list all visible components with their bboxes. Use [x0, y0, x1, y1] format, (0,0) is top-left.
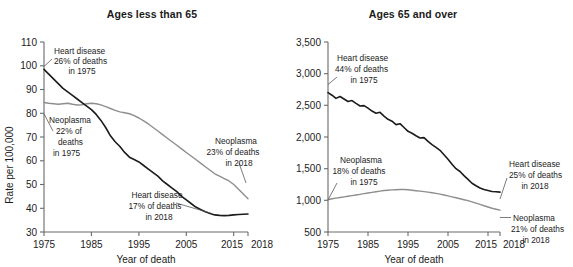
svg-text:in 1975: in 1975	[350, 177, 378, 187]
svg-text:Heart disease: Heart disease	[337, 53, 389, 63]
x-tick-label: 1975	[317, 239, 340, 250]
mortality-trends-figure: Ages less than 65 Rate per 100,000 30 40…	[0, 0, 573, 267]
y-tick-label: 2,000	[296, 132, 321, 143]
panel-left-y-ticks: 30 40 50 60 70 80 90 100 110	[20, 37, 44, 238]
y-tick-label: 3,500	[296, 37, 321, 48]
panel-right-y-ticks: 500 1,000 1,500 2,000 2,500 3,000 3,500	[296, 37, 328, 238]
svg-text:18% of deaths: 18% of deaths	[332, 166, 385, 176]
y-tick-label: 100	[20, 60, 37, 71]
leader-heart-2018	[500, 178, 507, 199]
panel-left-x-ticks: 1975 1985 1995 2005 2015 2018	[33, 232, 274, 250]
svg-text:in 2018: in 2018	[521, 181, 549, 191]
annotation-heart-2018: Heart disease 25% of deaths in 2018	[509, 159, 562, 191]
y-tick-label: 1,500	[296, 163, 321, 174]
svg-text:26% of deaths: 26% of deaths	[54, 56, 107, 66]
annotation-neoplasms-2018: Neoplasma 23% of deaths in 2018	[206, 136, 259, 168]
svg-text:in 1975: in 1975	[53, 148, 81, 158]
annotation-heart-2018: Heart disease 17% of deaths in 2018	[128, 190, 182, 222]
y-tick-label: 30	[26, 227, 38, 238]
svg-text:Heart disease: Heart disease	[131, 190, 183, 200]
svg-text:in 1975: in 1975	[350, 75, 378, 85]
x-tick-label: 2015	[475, 239, 498, 250]
x-tick-label: 2018	[251, 239, 274, 250]
panel-left-x-axis-label: Year of death	[116, 254, 175, 265]
panel-right-x-ticks: 1975 1985 1995 2005 2015 2018	[317, 232, 526, 250]
svg-text:deaths: deaths	[58, 137, 83, 147]
panel-left-plot: Rate per 100,000 30 40 50 60 70 80	[0, 0, 286, 267]
y-tick-label: 50	[26, 179, 38, 190]
svg-text:44% of deaths: 44% of deaths	[335, 64, 388, 74]
series-line-neoplasms	[328, 189, 500, 210]
x-tick-label: 1995	[397, 239, 420, 250]
svg-text:17% of deaths: 17% of deaths	[128, 201, 181, 211]
x-tick-label: 1975	[33, 239, 56, 250]
panel-ages-less-than-65: Ages less than 65 Rate per 100,000 30 40…	[0, 0, 286, 267]
svg-text:22% of: 22% of	[56, 126, 83, 136]
panel-right-plot: 500 1,000 1,500 2,000 2,500 3,000 3,500 …	[287, 0, 573, 267]
svg-text:Heart disease: Heart disease	[54, 46, 106, 56]
y-tick-label: 1,000	[296, 195, 321, 206]
svg-text:Heart disease: Heart disease	[509, 159, 561, 169]
y-tick-label: 2,500	[296, 100, 321, 111]
leader-neoplasms-1975	[328, 183, 337, 200]
svg-text:in 1975: in 1975	[68, 66, 96, 76]
annotation-heart-1975: Heart disease 26% of deaths in 1975	[54, 46, 107, 76]
y-tick-label: 110	[21, 37, 37, 48]
svg-text:25% of deaths: 25% of deaths	[509, 170, 562, 180]
x-tick-label: 1995	[128, 239, 151, 250]
svg-text:Neoplasma: Neoplasma	[215, 136, 257, 146]
y-tick-label: 3,000	[296, 68, 321, 79]
svg-text:Neoplasma: Neoplasma	[513, 213, 555, 223]
y-tick-label: 70	[26, 132, 38, 143]
x-tick-label: 2005	[175, 239, 198, 250]
x-tick-label: 2005	[437, 239, 460, 250]
svg-text:in 2018: in 2018	[522, 235, 550, 245]
svg-text:23% of deaths: 23% of deaths	[206, 147, 259, 157]
panel-left-y-axis-label: Rate per 100,000	[4, 126, 15, 204]
svg-text:in 2018: in 2018	[145, 212, 173, 222]
y-tick-label: 40	[26, 203, 38, 214]
leader-heart-1975	[328, 77, 337, 85]
y-tick-label: 90	[26, 84, 38, 95]
leader-heart-1975	[44, 59, 52, 67]
annotation-neoplasms-1975: Neoplasma 22% of deaths in 1975	[49, 115, 91, 158]
x-tick-label: 1985	[80, 239, 103, 250]
y-tick-label: 80	[26, 108, 38, 119]
y-tick-label: 60	[26, 155, 38, 166]
svg-text:Neoplasma: Neoplasma	[49, 115, 91, 125]
y-tick-label: 500	[304, 227, 321, 238]
panel-ages-65-and-over: Ages 65 and over 500 1,000 1,500 2,000 2…	[287, 0, 573, 267]
annotation-heart-1975: Heart disease 44% of deaths in 1975	[335, 53, 389, 85]
svg-text:Neoplasma: Neoplasma	[340, 155, 382, 165]
svg-text:in 2018: in 2018	[225, 158, 253, 168]
x-tick-label: 2015	[221, 239, 244, 250]
svg-text:21% of deaths: 21% of deaths	[511, 224, 564, 234]
x-tick-label: 1985	[357, 239, 380, 250]
panel-right-x-axis-label: Year of death	[384, 254, 443, 265]
annotation-neoplasms-1975: Neoplasma 18% of deaths in 1975	[332, 155, 385, 187]
